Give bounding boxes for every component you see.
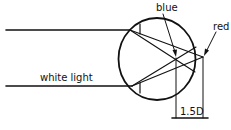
label-white-light: white light <box>40 73 93 83</box>
red-pointer-line <box>206 32 216 52</box>
label-red: red <box>213 22 229 32</box>
red-arrowhead-icon <box>204 49 209 57</box>
chromatic-aberration-diagram: blue red white light 1.5D <box>0 0 231 130</box>
label-distance: 1.5D <box>180 107 204 117</box>
label-blue: blue <box>156 3 178 13</box>
ray-bottom-red <box>132 57 203 86</box>
blue-arrowhead-icon <box>173 50 178 58</box>
